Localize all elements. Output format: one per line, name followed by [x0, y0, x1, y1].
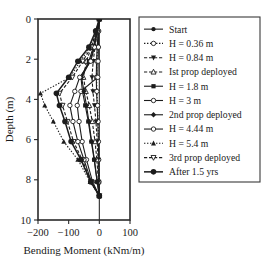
plot-frame [38, 19, 130, 220]
bending-moment-depth-chart: −200−10001000246810Bending Moment (kNm/m… [0, 0, 264, 274]
legend-label-9: 3rd prop deployed [169, 152, 240, 163]
data-point [86, 44, 92, 50]
x-tick-label: 0 [97, 227, 102, 238]
data-point [151, 27, 155, 31]
legend-label-7: H = 4.44 m [169, 123, 214, 134]
legend-label-1: H = 0.36 m [169, 38, 214, 49]
data-point [96, 59, 100, 63]
y-tick-label: 10 [21, 215, 32, 226]
y-tick-label: 6 [26, 134, 31, 145]
plot-area [38, 16, 102, 198]
data-point [97, 16, 103, 22]
data-point [78, 75, 82, 79]
y-tick-label: 2 [26, 54, 31, 65]
data-point [78, 157, 84, 163]
legend-label-10: After 1.5 yrs [169, 166, 218, 177]
data-point [62, 119, 68, 125]
y-tick-label: 8 [26, 174, 31, 185]
data-point [80, 139, 84, 143]
data-point [151, 169, 157, 175]
legend-label-5: H = 3 m [169, 95, 202, 106]
data-point [77, 119, 81, 123]
data-point [54, 91, 60, 97]
data-point [75, 58, 81, 64]
data-point [151, 127, 155, 131]
legend-label-8: H = 5.4 m [169, 138, 209, 149]
y-tick-label: 4 [26, 94, 32, 105]
data-point [51, 119, 56, 124]
data-point [88, 179, 94, 185]
y-tick-label: 0 [26, 14, 31, 25]
data-point [66, 74, 72, 80]
legend-label-0: Start [169, 24, 188, 35]
data-point [73, 89, 77, 93]
data-point [89, 59, 93, 63]
data-point [151, 98, 155, 102]
data-point [61, 139, 66, 144]
legend: StartH = 0.36 mH = 0.84 mIst prop deploy… [139, 17, 260, 182]
legend-label-6: 2nd prop deployed [169, 109, 242, 120]
chart-root: −200−10001000246810Bending Moment (kNm/m… [0, 0, 264, 274]
data-point [42, 103, 47, 108]
y-axis-label: Depth (m) [3, 96, 16, 142]
data-point [93, 28, 99, 34]
data-point [75, 103, 79, 107]
data-point [151, 84, 155, 88]
x-tick-label: 100 [122, 227, 138, 238]
data-point [76, 139, 80, 143]
data-point [89, 75, 94, 80]
data-point [68, 139, 74, 145]
legend-label-4: H = 1.8 m [169, 81, 209, 92]
legend-label-2: H = 0.84 m [169, 52, 214, 63]
x-axis-label: Bending Moment (kNm/m) [24, 244, 145, 257]
data-point [151, 41, 155, 45]
data-point [71, 119, 75, 123]
data-point [68, 103, 72, 107]
x-tick-label: −100 [58, 227, 80, 238]
data-point [95, 89, 99, 93]
legend-label-3: Ist prop deployed [169, 66, 237, 77]
x-tick-label: −200 [27, 227, 49, 238]
data-point [96, 75, 100, 79]
data-point [97, 193, 103, 199]
data-point [57, 103, 63, 109]
